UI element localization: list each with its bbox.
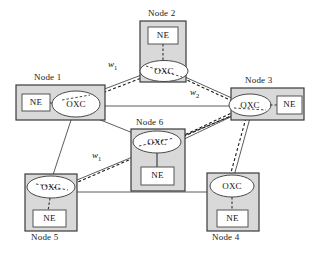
node4-ne-label: NE — [217, 213, 248, 223]
link-node3-node4-dashed — [230, 118, 246, 176]
node1-ne-label: NE — [22, 97, 50, 107]
wavelength-label-w1-bottom: w1 — [92, 150, 101, 162]
node6-ne-label: NE — [141, 170, 174, 180]
node4-title: Node 4 — [212, 232, 239, 242]
node2-oxc-label: OXC — [148, 66, 180, 76]
node6-oxc-label: OXC — [141, 137, 173, 147]
node5-ne-label: NE — [33, 213, 66, 223]
node5-oxc-label: OXC — [35, 182, 67, 192]
wavelength-label-w2-mid: w2 — [190, 87, 199, 99]
node3-oxc-label: OXC — [234, 100, 266, 110]
link-node1-node5-solid — [52, 117, 72, 178]
link-node3-node4-solid — [234, 118, 250, 176]
w2-mid-sub: 2 — [196, 92, 199, 99]
network-topology-diagram: Node 2 Node 1 Node 3 Node 6 Node 5 Node … — [0, 0, 315, 253]
node1-oxc-label: OXC — [60, 99, 92, 109]
node6-title: Node 6 — [136, 117, 163, 127]
node3-title: Node 3 — [245, 75, 272, 85]
node4-oxc-label: OXC — [216, 181, 248, 191]
wavelength-label-w1-top: w1 — [108, 59, 117, 71]
w1-top-sub: 1 — [114, 64, 117, 71]
w1-bottom-sub: 1 — [98, 155, 101, 162]
node2-ne-label: NE — [148, 30, 178, 40]
node2-title: Node 2 — [148, 8, 175, 18]
node5-title: Node 5 — [31, 232, 58, 242]
node1-title: Node 1 — [34, 72, 61, 82]
node3-ne-label: NE — [277, 99, 302, 109]
